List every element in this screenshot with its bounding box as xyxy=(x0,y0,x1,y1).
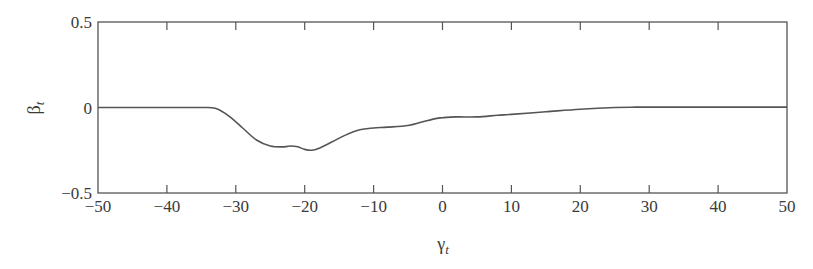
chart-canvas: −50−40−30−20−1001020304050 −0.500.5 γt β… xyxy=(0,0,813,269)
y-tick-label: 0.5 xyxy=(71,13,92,32)
y-axis-ticks: −0.500.5 xyxy=(61,13,92,203)
y-tick-label: 0 xyxy=(84,99,93,118)
x-tick-label: −10 xyxy=(360,197,387,216)
y-tick-label: −0.5 xyxy=(61,184,92,203)
x-axis-ticks: −50−40−30−20−1001020304050 xyxy=(85,22,796,216)
y-axis-label: βt xyxy=(24,101,47,114)
line-chart: −50−40−30−20−1001020304050 −0.500.5 γt β… xyxy=(0,0,813,269)
x-axis-label: γt xyxy=(436,234,449,257)
x-tick-label: 10 xyxy=(503,197,520,216)
x-tick-label: 50 xyxy=(779,197,796,216)
x-tick-label: 40 xyxy=(710,197,727,216)
x-tick-label: 20 xyxy=(572,197,589,216)
series-layer xyxy=(98,107,787,150)
x-tick-label: −40 xyxy=(154,197,181,216)
x-tick-label: 0 xyxy=(438,197,447,216)
series-line xyxy=(98,107,787,150)
x-tick-label: −20 xyxy=(291,197,318,216)
x-tick-label: 30 xyxy=(641,197,658,216)
x-tick-label: −30 xyxy=(223,197,250,216)
